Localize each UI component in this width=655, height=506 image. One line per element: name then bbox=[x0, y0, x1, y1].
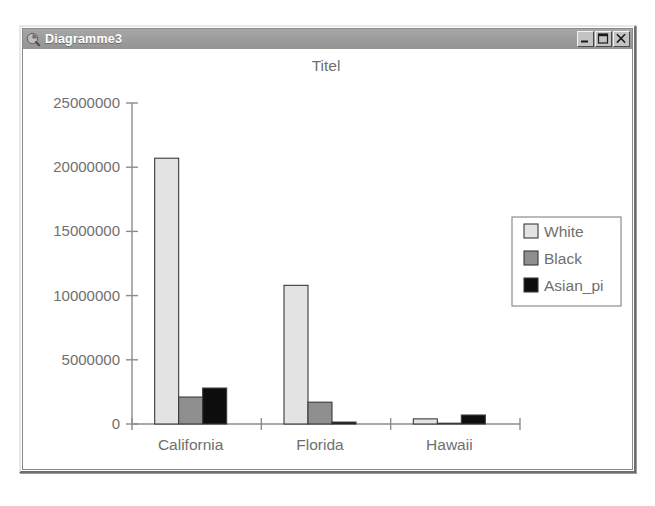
y-axis-ticks: 0500000010000000150000002000000025000000 bbox=[53, 94, 138, 432]
bar-florida-white bbox=[284, 285, 308, 424]
legend-label-asian_pi: Asian_pi bbox=[544, 277, 603, 294]
bar-california-asian_pi bbox=[203, 388, 227, 424]
category-label: Florida bbox=[296, 436, 344, 453]
bar-california-white bbox=[155, 158, 179, 424]
legend-swatch-asian_pi bbox=[524, 278, 538, 292]
bar-california-black bbox=[179, 397, 203, 424]
category-labels: CaliforniaFloridaHawaii bbox=[158, 436, 473, 453]
chart-legend: WhiteBlackAsian_pi bbox=[512, 217, 621, 306]
bar-chart: Titel 0500000010000000150000002000000025… bbox=[23, 49, 632, 469]
bar-florida-black bbox=[308, 402, 332, 424]
legend-swatch-black bbox=[524, 251, 538, 265]
y-tick-label: 20000000 bbox=[53, 158, 120, 175]
maximize-button[interactable] bbox=[595, 31, 612, 47]
bar-florida-asian_pi bbox=[332, 422, 356, 424]
category-label: Hawaii bbox=[426, 436, 473, 453]
legend-label-white: White bbox=[544, 223, 584, 240]
title-bar[interactable]: Diagramme3 bbox=[23, 29, 632, 49]
minimize-button[interactable] bbox=[577, 31, 594, 47]
bar-hawaii-black bbox=[437, 423, 461, 424]
legend-swatch-white bbox=[524, 224, 538, 238]
chart-plot-area: Titel 0500000010000000150000002000000025… bbox=[23, 49, 632, 469]
y-tick-label: 25000000 bbox=[53, 94, 120, 111]
category-label: California bbox=[158, 436, 224, 453]
chart-window[interactable]: Diagramme3 Titel 05000000100000001500000… bbox=[19, 25, 636, 473]
bars-group bbox=[155, 158, 486, 424]
y-tick-label: 10000000 bbox=[53, 287, 120, 304]
bar-hawaii-white bbox=[413, 419, 437, 424]
y-tick-label: 15000000 bbox=[53, 222, 120, 239]
close-button[interactable] bbox=[613, 31, 630, 47]
window-title: Diagramme3 bbox=[45, 32, 576, 46]
legend-label-black: Black bbox=[544, 250, 582, 267]
chart-document-icon bbox=[26, 32, 41, 47]
bar-hawaii-asian_pi bbox=[461, 415, 485, 424]
chart-title: Titel bbox=[312, 57, 341, 74]
y-tick-label: 0 bbox=[112, 415, 120, 432]
y-tick-label: 5000000 bbox=[62, 351, 120, 368]
